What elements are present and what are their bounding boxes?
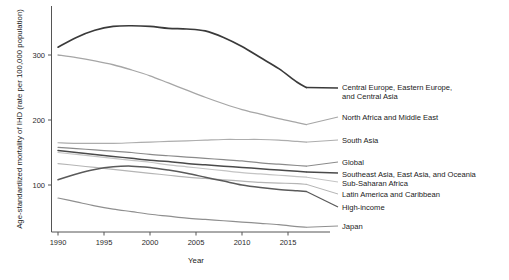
chart-figure: 300 200 100 1990 1995 2000 2005 2010 201… [0,0,509,280]
series-label-japan: Japan [342,222,363,231]
series-label-global: Global [342,158,364,167]
series-label-central-europe: Central Europe, Eastern Europe, and Cent… [342,83,452,101]
series-label-north-africa: North Africa and Middle East [342,113,438,122]
series-label-north-africa-text: North Africa and Middle East [342,113,438,122]
series-label-central-europe-line1: Central Europe, Eastern Europe, [342,83,452,92]
series-labels-panel: Central Europe, Eastern Europe, and Cent… [0,0,509,280]
series-label-japan-text: Japan [342,222,363,231]
series-label-south-asia-text: South Asia [342,136,378,145]
series-label-high-income: High-income [342,203,385,212]
series-label-south-asia: South Asia [342,136,378,145]
series-label-high-income-text: High-income [342,203,385,212]
series-label-latin-america-text: Latin America and Caribbean [342,190,440,199]
series-label-sub-saharan-africa-text: Sub-Saharan Africa [342,179,408,188]
series-label-sub-saharan-africa: Sub-Saharan Africa [342,179,408,188]
series-label-southeast-asia-text: Southeast Asia, East Asia, and Oceania [342,170,476,179]
series-label-central-europe-line2: and Central Asia [342,92,452,101]
series-label-latin-america: Latin America and Caribbean [342,190,440,199]
series-label-global-text: Global [342,158,364,167]
series-label-southeast-asia: Southeast Asia, East Asia, and Oceania [342,170,476,179]
